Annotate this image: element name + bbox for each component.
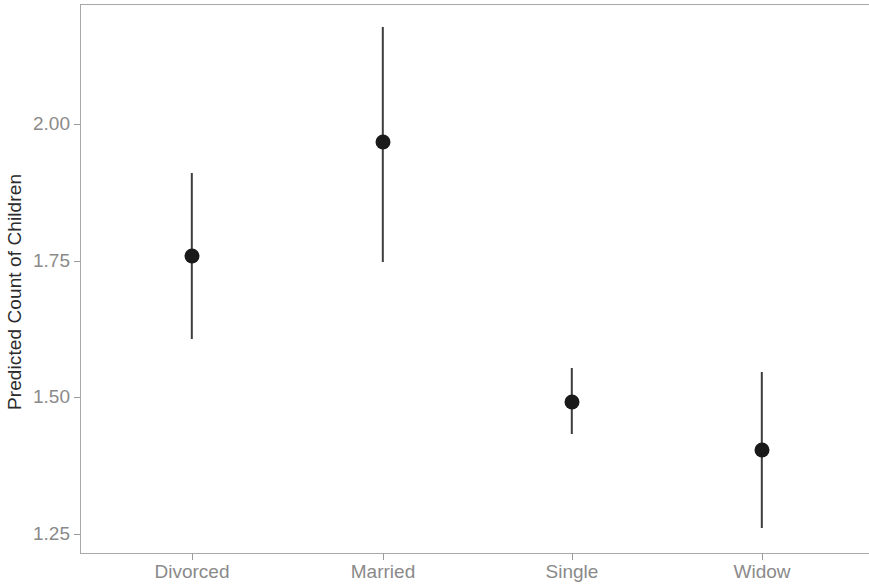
data-point <box>185 249 200 264</box>
x-tick-label: Divorced <box>155 561 230 583</box>
data-point <box>755 442 770 457</box>
data-point <box>565 394 580 409</box>
x-tick-label: Married <box>351 561 415 583</box>
x-tick-mark <box>192 554 193 560</box>
y-tick-label: 2.00 <box>14 113 70 135</box>
x-tick-label: Single <box>546 561 599 583</box>
y-tick-label: 1.50 <box>14 386 70 408</box>
plot-panel <box>80 4 869 554</box>
y-tick-label-group: 2.001.751.501.25 <box>14 0 70 584</box>
data-point <box>376 135 391 150</box>
x-tick-mark <box>572 554 573 560</box>
x-tick-label: Widow <box>733 561 790 583</box>
x-tick-mark <box>383 554 384 560</box>
chart-figure: Predicted Count of Children 2.001.751.50… <box>0 0 869 584</box>
y-tick-label: 1.25 <box>14 523 70 545</box>
y-tick-label: 1.75 <box>14 250 70 272</box>
x-tick-mark <box>762 554 763 560</box>
